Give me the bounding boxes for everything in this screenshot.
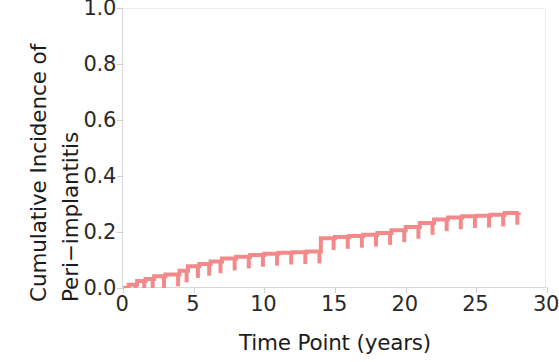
axis-spine-top bbox=[123, 8, 546, 9]
y-axis-tick-mark bbox=[117, 64, 123, 65]
y-axis-tick-label: 0.4 bbox=[66, 164, 116, 188]
x-axis-tick-labels: 051015202530 bbox=[122, 292, 546, 326]
x-axis-tick-label: 10 bbox=[250, 292, 276, 316]
y-axis-tick-mark bbox=[117, 176, 123, 177]
x-axis-tick-label: 20 bbox=[392, 292, 418, 316]
x-axis-tick-label: 30 bbox=[533, 292, 559, 316]
axis-spine-right bbox=[545, 8, 546, 287]
y-axis-tick-mark bbox=[117, 8, 123, 9]
plot-area bbox=[122, 8, 546, 288]
cumulative-incidence-step-curve bbox=[123, 8, 547, 288]
x-axis-tick-label: 15 bbox=[321, 292, 347, 316]
y-axis-title-line-1: Cumulative Incidence of bbox=[26, 44, 51, 302]
y-axis-tick-label: 0.6 bbox=[66, 108, 116, 132]
x-axis-title-text: Time Point (years) bbox=[239, 330, 431, 355]
x-axis-tick-label: 0 bbox=[115, 292, 128, 316]
y-axis-tick-mark bbox=[117, 232, 123, 233]
y-axis-tick-labels: 0.00.20.40.60.81.0 bbox=[64, 0, 116, 362]
y-axis-tick-label: 0.0 bbox=[66, 276, 116, 300]
x-axis-tick-label: 25 bbox=[462, 292, 488, 316]
y-axis-tick-label: 0.8 bbox=[66, 52, 116, 76]
y-axis-tick-label: 1.0 bbox=[66, 0, 116, 20]
x-axis-tick-label: 5 bbox=[186, 292, 199, 316]
censoring-marks bbox=[136, 213, 518, 288]
y-axis-tick-label: 0.2 bbox=[66, 220, 116, 244]
y-axis-tick-mark bbox=[117, 120, 123, 121]
x-axis-title: Time Point (years) bbox=[0, 330, 554, 355]
